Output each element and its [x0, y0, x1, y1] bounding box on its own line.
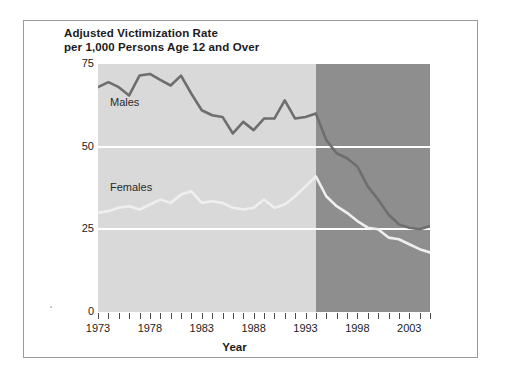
y-tick-label-50: 50: [54, 140, 94, 152]
series-label-females: Females: [110, 181, 152, 193]
x-tick-1990: [274, 313, 275, 319]
chart-title-line-2: per 1,000 Persons Age 12 and Over: [64, 40, 364, 54]
x-tick-label-1978: 1978: [138, 322, 162, 334]
x-tick-1999: [368, 313, 369, 319]
x-tick-1983: [202, 313, 203, 319]
x-tick-1985: [223, 313, 224, 319]
x-tick-1995: [326, 313, 327, 319]
x-tick-1980: [171, 313, 172, 319]
x-tick-label-1998: 1998: [345, 322, 369, 334]
x-tick-1978: [150, 313, 151, 319]
x-tick-2005: [430, 313, 431, 319]
x-tick-label-2003: 2003: [397, 322, 421, 334]
x-tick-2004: [420, 313, 421, 319]
y-tick-label-0: 0: [54, 305, 94, 317]
x-tick-1974: [108, 313, 109, 319]
x-tick-2002: [399, 313, 400, 319]
x-tick-1994: [316, 313, 317, 319]
y-tick-label-75: 75: [54, 57, 94, 69]
x-tick-1993: [306, 313, 307, 319]
x-axis-title-text: Year: [222, 341, 246, 353]
x-tick-label-1988: 1988: [241, 322, 265, 334]
x-tick-1989: [264, 313, 265, 319]
x-tick-label-1993: 1993: [293, 322, 317, 334]
x-tick-1979: [160, 313, 161, 319]
x-tick-1988: [254, 313, 255, 319]
x-tick-1984: [212, 313, 213, 319]
x-tick-1977: [140, 313, 141, 319]
x-tick-1998: [357, 313, 358, 319]
chart-page: Adjusted Victimization Rate per 1,000 Pe…: [0, 0, 505, 378]
x-tick-1992: [295, 313, 296, 319]
scan-speck: [50, 306, 52, 308]
x-tick-label-1973: 1973: [86, 322, 110, 334]
x-tick-1987: [243, 313, 244, 319]
x-tick-1981: [181, 313, 182, 319]
chart-title-line-1: Adjusted Victimization Rate: [64, 26, 364, 40]
x-tick-1976: [129, 313, 130, 319]
x-tick-2000: [378, 313, 379, 319]
x-tick-label-1983: 1983: [190, 322, 214, 334]
x-tick-1986: [233, 313, 234, 319]
chart-title: Adjusted Victimization Rate per 1,000 Pe…: [64, 26, 364, 54]
x-tick-1996: [337, 313, 338, 319]
x-tick-1973: [98, 313, 99, 319]
x-tick-1997: [347, 313, 348, 319]
x-axis-tick-labels: 1973197819831988199319982003: [0, 322, 505, 338]
x-tick-1991: [285, 313, 286, 319]
y-tick-label-25: 25: [54, 222, 94, 234]
x-axis-title: Year: [0, 341, 505, 353]
x-tick-2003: [409, 313, 410, 319]
x-axis-ticks: [98, 313, 430, 320]
x-tick-1975: [119, 313, 120, 319]
x-tick-2001: [389, 313, 390, 319]
x-tick-1982: [191, 313, 192, 319]
series-label-males: Males: [110, 96, 139, 108]
